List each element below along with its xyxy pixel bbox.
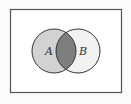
venn-diagram: A B xyxy=(0,0,131,104)
set-a-label: A xyxy=(44,45,53,58)
set-b-label: B xyxy=(78,45,87,58)
